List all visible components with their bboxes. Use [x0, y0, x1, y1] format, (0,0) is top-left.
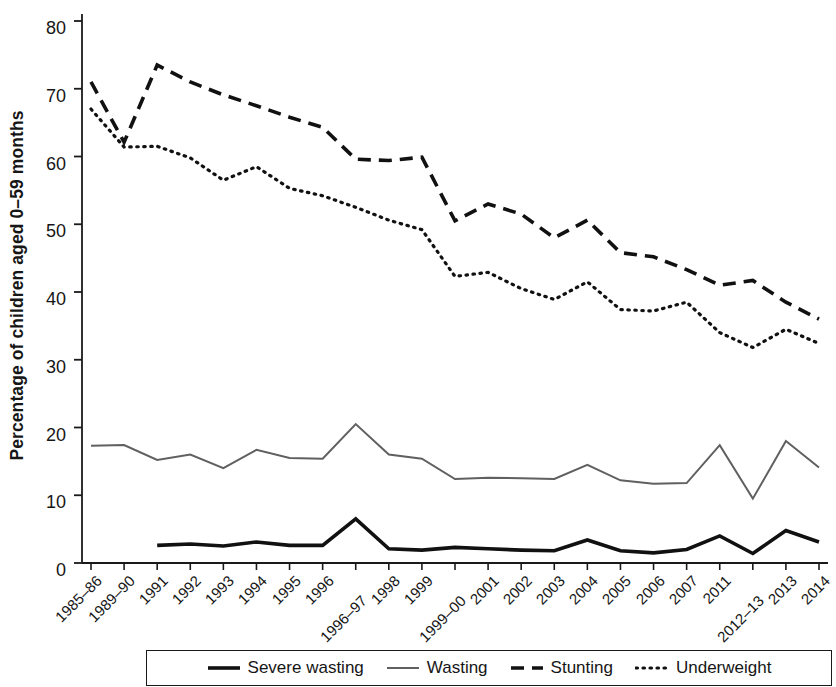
x-tick-label: 1999–00: [416, 592, 469, 645]
x-tick-label: 2012–13: [714, 592, 767, 645]
y-tick-label: 60: [36, 153, 66, 174]
y-tick-label: 30: [36, 356, 66, 377]
legend-swatch-solid-thin: [386, 662, 420, 674]
x-tick-label: 1994: [235, 572, 271, 608]
x-tick-label: 1991: [136, 572, 172, 608]
legend-entry-stunting: Stunting: [510, 658, 613, 678]
legend-label: Underweight: [676, 658, 771, 678]
chart-plot-svg: [72, 14, 832, 570]
legend-entry-wasting: Wasting: [386, 658, 488, 678]
x-tick-label: 2005: [599, 572, 635, 608]
legend-swatch-dotted: [635, 662, 669, 674]
y-tick-label: 80: [36, 18, 66, 39]
legend-label: Wasting: [427, 658, 488, 678]
chart-container: Percentage of children aged 0–59 months …: [0, 0, 836, 687]
y-tick-label: 70: [36, 85, 66, 106]
y-tick-label: 0: [36, 560, 66, 581]
x-tick-label: 2003: [533, 572, 569, 608]
x-tick-label: 1996: [301, 572, 337, 608]
y-axis-title-text: Percentage of children aged 0–59 months: [7, 110, 28, 460]
legend-swatch-dashed: [510, 662, 544, 674]
x-tick-label: 1993: [202, 572, 238, 608]
x-tick-label: 1992: [169, 572, 205, 608]
legend-label: Severe wasting: [248, 658, 364, 678]
legend-swatch-solid-thick: [207, 662, 241, 674]
series-line-stunting: [91, 65, 819, 319]
x-tick-label: 1999: [400, 572, 436, 608]
y-tick-label: 10: [36, 492, 66, 513]
x-axis-tick-labels: 1985–861989–9019911992199319941995199619…: [72, 566, 836, 656]
legend-label: Stunting: [551, 658, 613, 678]
x-tick-label: 2006: [632, 572, 668, 608]
y-tick-label: 40: [36, 289, 66, 310]
x-tick-label: 2013: [764, 572, 800, 608]
y-tick-label: 20: [36, 424, 66, 445]
series-line-severe-wasting: [157, 519, 819, 554]
legend-entry-underweight: Underweight: [635, 658, 771, 678]
x-tick-label: 2007: [665, 572, 701, 608]
y-tick-label: 50: [36, 221, 66, 242]
series-line-underweight: [91, 109, 819, 347]
x-tick-label: 2014: [797, 572, 833, 608]
x-tick-label: 2011: [699, 572, 734, 607]
x-tick-label: 1998: [367, 572, 403, 608]
x-tick-label: 2001: [466, 572, 502, 608]
series-line-wasting: [91, 424, 819, 499]
legend-entry-severe-wasting: Severe wasting: [207, 658, 364, 678]
x-tick-label: 2004: [566, 572, 602, 608]
plot-area: [72, 14, 832, 570]
x-tick-label: 2002: [500, 572, 536, 608]
chart-legend: Severe wastingWastingStuntingUnderweight: [146, 650, 832, 686]
y-axis-tick-labels: 01020304050607080: [30, 14, 66, 570]
y-axis-title: Percentage of children aged 0–59 months: [0, 0, 34, 570]
x-tick-label: 1995: [268, 572, 304, 608]
x-tick-label: 1996–97: [316, 592, 369, 645]
